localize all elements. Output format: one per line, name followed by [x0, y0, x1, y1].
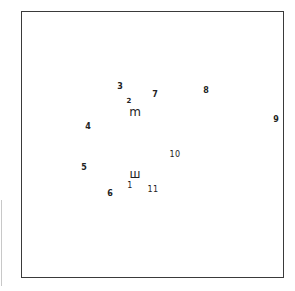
point-label-1: 1	[127, 182, 133, 190]
point-label-7: 7	[152, 91, 158, 99]
point-label-9: 9	[273, 116, 279, 124]
point-label-3: 3	[117, 83, 123, 91]
point-label-5: 5	[81, 164, 87, 172]
point-label-2: 2	[127, 98, 132, 105]
point-label-11: 11	[147, 186, 158, 194]
scan-edge-line	[1, 200, 2, 286]
plot-frame	[21, 11, 284, 278]
point-label-4: 4	[85, 123, 91, 131]
centroid-w-marker: ш	[130, 168, 141, 180]
point-label-6: 6	[107, 190, 113, 198]
point-label-8: 8	[203, 87, 209, 95]
centroid-m-marker: m	[129, 106, 141, 118]
point-label-10: 10	[169, 151, 180, 159]
